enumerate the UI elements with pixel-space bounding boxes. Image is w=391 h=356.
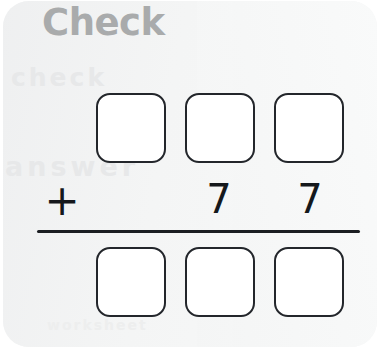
sum-row-tens-box[interactable] <box>185 247 255 317</box>
addend-tens-digit: 7 <box>199 177 239 221</box>
sum-line <box>37 230 360 233</box>
page-title: Check <box>42 1 165 45</box>
top-row-hundreds-box[interactable] <box>96 93 166 163</box>
plus-operator: + <box>42 180 82 222</box>
top-row-ones-box[interactable] <box>274 93 344 163</box>
top-row-tens-box[interactable] <box>185 93 255 163</box>
sum-row-hundreds-box[interactable] <box>96 247 166 317</box>
worksheet-page: check answer worksheet Check + 7 7 <box>0 0 391 356</box>
sum-row-ones-box[interactable] <box>274 247 344 317</box>
addend-ones-digit: 7 <box>290 177 330 221</box>
